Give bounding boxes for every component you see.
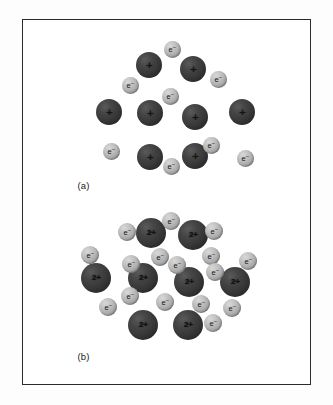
figure-frame-border: ++++++++e−e−e−e−e−e−e−e− (a) 2+2+2+2+2+2… [22, 19, 311, 385]
delocalised-electron: e− [192, 295, 210, 313]
electron-label: e− [162, 299, 170, 307]
electron-label: e− [215, 76, 223, 84]
delocalised-electron: e− [239, 252, 257, 270]
electron-label: e− [245, 258, 253, 266]
metal-ion: + [96, 99, 122, 125]
ion-charge-label: + [147, 108, 153, 119]
delocalised-electron: e− [205, 222, 223, 240]
electron-label: e− [229, 305, 237, 313]
electron-label: e− [167, 93, 175, 101]
ion-charge-label: + [106, 107, 112, 118]
ion-charge-label: + [146, 60, 152, 71]
metal-ion: 2+ [81, 263, 111, 293]
delocalised-electron: e− [121, 287, 139, 305]
electron-label: e− [124, 229, 132, 237]
ion-charge-label: 2+ [92, 274, 101, 282]
electron-label: e− [208, 142, 216, 150]
electron-label: e− [208, 253, 216, 261]
ion-charge-label: 2+ [189, 231, 198, 239]
delocalised-electron: e− [204, 314, 222, 332]
metal-ion: + [229, 99, 255, 125]
electron-label: e− [211, 228, 219, 236]
delocalised-electron: e− [162, 212, 180, 230]
metal-ion: + [137, 144, 163, 170]
delocalised-electron: e− [99, 298, 117, 316]
delocalised-electron: e− [156, 293, 174, 311]
ion-charge-label: + [190, 64, 196, 75]
ion-charge-label: 2+ [231, 278, 240, 286]
metal-ion: 2+ [128, 310, 158, 340]
figure-root: ++++++++e−e−e−e−e−e−e−e− (a) 2+2+2+2+2+2… [0, 0, 333, 405]
delocalised-electron: e− [164, 41, 181, 58]
electron-label: e− [210, 320, 218, 328]
electron-label: e− [127, 82, 135, 90]
ion-charge-label: + [192, 151, 198, 162]
metal-ion: 2+ [220, 267, 250, 297]
ion-charge-label: 2+ [139, 274, 148, 282]
electron-label: e− [108, 148, 116, 156]
metal-ion: + [180, 56, 206, 82]
metal-ion: + [137, 100, 163, 126]
electron-label: e− [212, 269, 220, 277]
delocalised-electron: e− [81, 246, 99, 264]
electron-label: e− [198, 301, 206, 309]
delocalised-electron: e− [237, 150, 254, 167]
electron-label: e− [168, 163, 176, 171]
delocalised-electron: e− [163, 158, 180, 175]
ion-charge-label: 2+ [185, 278, 194, 286]
delocalised-electron: e− [103, 143, 120, 160]
electron-label: e− [87, 252, 95, 260]
ion-charge-label: 2+ [147, 229, 156, 237]
ion-charge-label: + [239, 107, 245, 118]
electron-label: e− [169, 46, 177, 54]
delocalised-electron: e− [118, 223, 136, 241]
panel-a-label: (a) [77, 180, 89, 191]
electron-label: e− [174, 262, 182, 270]
electron-label: e− [242, 155, 250, 163]
metal-ion: 2+ [173, 310, 203, 340]
electron-label: e− [127, 293, 135, 301]
delocalised-electron: e− [151, 248, 169, 266]
delocalised-electron: e− [122, 77, 139, 94]
electron-label: e− [128, 261, 136, 269]
delocalised-electron: e− [162, 88, 179, 105]
ion-charge-label: 2+ [184, 321, 193, 329]
delocalised-electron: e− [210, 71, 227, 88]
metal-ion: + [182, 104, 208, 130]
panel-b-label: (b) [77, 351, 89, 362]
ion-charge-label: + [192, 112, 198, 123]
ion-charge-label: + [147, 152, 153, 163]
delocalised-electron: e− [203, 137, 220, 154]
electron-label: e− [168, 218, 176, 226]
delocalised-electron: e− [223, 299, 241, 317]
metal-ion: + [136, 52, 162, 78]
metal-ion: 2+ [178, 220, 208, 250]
electron-label: e− [157, 254, 165, 262]
ion-charge-label: 2+ [139, 321, 148, 329]
electron-label: e− [105, 304, 113, 312]
